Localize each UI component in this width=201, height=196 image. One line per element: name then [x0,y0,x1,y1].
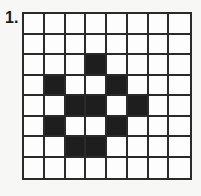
puzzle-number-label: 1. [5,9,18,27]
grid-cell-empty [86,14,107,35]
grid-cell-empty [24,96,45,117]
grid-cell-empty [24,117,45,138]
grid-cell-empty [66,14,87,35]
grid-cell-empty [107,55,128,76]
grid-cell-empty [24,158,45,179]
grid-cell-filled [86,96,107,117]
grid-cell-empty [66,158,87,179]
grid-cell-empty [128,158,149,179]
grid-cell-filled [86,137,107,158]
grid-cell-empty [107,158,128,179]
grid-cell-empty [107,14,128,35]
grid-cell-empty [149,14,170,35]
grid-cell-empty [86,35,107,56]
grid-cell-filled [107,117,128,138]
grid-cell-filled [66,137,87,158]
grid-cell-empty [149,117,170,138]
grid-cell-empty [128,14,149,35]
grid-cell-filled [107,76,128,97]
grid-cell-empty [24,35,45,56]
grid-cell-filled [45,117,66,138]
grid-cell-empty [107,137,128,158]
grid-cell-empty [169,137,190,158]
grid-cell-empty [169,14,190,35]
grid-cell-empty [45,137,66,158]
grid-cell-empty [169,76,190,97]
grid-cell-empty [149,55,170,76]
grid-cell-empty [45,14,66,35]
grid-cell-empty [66,117,87,138]
grid-cell-empty [107,96,128,117]
grid-cell-filled [45,76,66,97]
grid-cell-empty [86,76,107,97]
grid-cell-empty [45,158,66,179]
grid-cell-empty [86,158,107,179]
grid-cell-empty [149,35,170,56]
grid-cell-filled [86,55,107,76]
grid-cell-empty [149,158,170,179]
grid-cell-empty [128,76,149,97]
grid-cell-empty [66,55,87,76]
grid-cell-empty [149,76,170,97]
grid-cell-empty [149,96,170,117]
grid-cell-empty [24,76,45,97]
grid-cell-empty [169,158,190,179]
grid-cell-empty [45,96,66,117]
grid-cell-empty [169,117,190,138]
grid-cell-empty [128,55,149,76]
grid-cell-empty [169,55,190,76]
grid-cell-empty [128,35,149,56]
grid-cell-filled [66,96,87,117]
pixel-grid [22,12,192,180]
grid-cell-empty [86,117,107,138]
grid-cell-empty [149,137,170,158]
grid-cell-empty [24,137,45,158]
grid-cell-empty [128,137,149,158]
grid-cell-empty [45,55,66,76]
grid-cell-empty [24,14,45,35]
grid-cell-empty [128,117,149,138]
grid-cell-empty [24,55,45,76]
grid-cell-empty [169,35,190,56]
grid-cell-empty [45,35,66,56]
grid-cell-empty [66,76,87,97]
grid-cell-filled [128,96,149,117]
grid-cell-empty [66,35,87,56]
grid-cell-empty [107,35,128,56]
grid-cell-empty [169,96,190,117]
